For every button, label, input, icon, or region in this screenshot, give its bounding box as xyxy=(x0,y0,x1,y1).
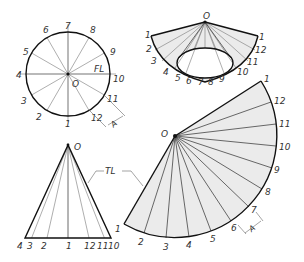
rolled-label-2: 2 xyxy=(146,44,152,54)
label-2: 2 xyxy=(36,112,42,122)
rolled-apex-label: O xyxy=(203,11,210,21)
rolled-label-10: 10 xyxy=(237,67,249,77)
rolled-label-4: 4 xyxy=(163,67,169,77)
label-6: 6 xyxy=(43,25,49,35)
rolled-label-11: 11 xyxy=(247,57,258,67)
dev-label-1-top: 1 xyxy=(264,74,270,84)
front-label-4: 4 xyxy=(17,241,23,251)
dev-label-5: 5 xyxy=(210,234,216,244)
dev-label-11: 11 xyxy=(279,119,290,129)
dev-label-3: 3 xyxy=(163,242,169,252)
label-9: 9 xyxy=(110,47,116,57)
cone-development-drawing: 7 6 8 5 9 4 10 3 11 2 12 1 O FL A xyxy=(0,0,304,262)
dev-label-10: 10 xyxy=(279,142,291,152)
label-7: 7 xyxy=(65,21,71,31)
front-label-1: 1 xyxy=(66,241,72,251)
center-point xyxy=(66,72,69,75)
dev-label-2: 2 xyxy=(138,237,144,247)
rolled-view: O 1 2 3 4 5 6 7 8 9 1 12 11 10 xyxy=(145,11,267,87)
dev-label-6: 6 xyxy=(231,223,237,233)
front-label-3: 3 xyxy=(27,241,33,251)
center-label-o: O xyxy=(72,79,79,89)
label-1: 1 xyxy=(65,119,71,129)
dev-label-1-bottom: 1 xyxy=(115,224,121,234)
front-label-11: 11 xyxy=(97,241,108,251)
development-view: O 1 12 11 10 9 8 7 6 5 4 3 2 1 A xyxy=(115,74,291,252)
top-view: 7 6 8 5 9 4 10 3 11 2 12 1 O FL A xyxy=(16,21,125,130)
front-label-10: 10 xyxy=(108,241,120,251)
rolled-label-3: 3 xyxy=(151,56,157,66)
development-apex-label: O xyxy=(161,129,168,139)
rolled-label-7: 7 xyxy=(198,77,204,87)
rolled-label-5: 5 xyxy=(175,73,181,83)
rolled-label-1-left: 1 xyxy=(145,30,151,40)
dev-label-12: 12 xyxy=(274,96,286,106)
label-5: 5 xyxy=(23,47,29,57)
label-11: 11 xyxy=(107,94,118,104)
front-view: O 4 3 2 1 12 11 10 TL xyxy=(17,142,143,251)
label-4: 4 xyxy=(16,70,22,80)
tl-leader: TL xyxy=(88,166,143,186)
dev-label-4: 4 xyxy=(186,240,192,250)
dev-label-9: 9 xyxy=(274,165,280,175)
front-label-2: 2 xyxy=(41,241,47,251)
label-10: 10 xyxy=(113,74,125,84)
label-8: 8 xyxy=(90,25,96,35)
rolled-label-9: 9 xyxy=(219,74,225,84)
rolled-label-8: 8 xyxy=(208,77,214,87)
dev-label-8: 8 xyxy=(265,187,271,197)
rolled-label-1-right: 1 xyxy=(259,32,265,42)
dimension-label-a: A xyxy=(108,119,119,130)
front-element-lines xyxy=(32,145,105,238)
dev-label-7: 7 xyxy=(251,205,257,215)
fl-label: FL xyxy=(94,64,104,74)
label-3: 3 xyxy=(21,96,27,106)
rolled-label-12: 12 xyxy=(255,45,267,55)
front-label-12: 12 xyxy=(84,241,96,251)
tl-label: TL xyxy=(105,166,116,176)
front-apex-label: O xyxy=(74,142,81,152)
dimension-a-development: A xyxy=(238,212,263,234)
rolled-label-6: 6 xyxy=(186,76,192,86)
